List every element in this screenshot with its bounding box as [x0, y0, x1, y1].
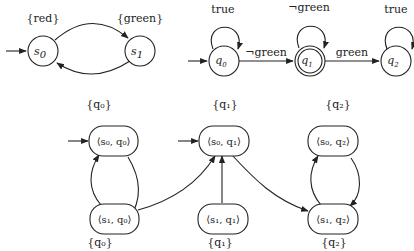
s1q1-label: ⟨s₁, q₁⟩ [206, 214, 240, 225]
s1q2-set: {q₂} [321, 236, 346, 249]
q1-loop-label: ¬green [288, 1, 330, 14]
edge-q0-q1-label: ¬green [245, 46, 287, 59]
buchi-automaton: true ¬green true ¬green green q0 q1 q2 [188, 1, 413, 76]
edge-s1q2-s0q2 [311, 156, 321, 205]
edge-s0q2-s1q2 [350, 158, 360, 206]
s0-props: {red} [27, 12, 60, 25]
q0-loop-label: true [211, 3, 234, 16]
s0q2-set: {q₂} [325, 98, 350, 111]
kripke-structure: {red} {green} s0 s1 [6, 12, 163, 74]
q2-loop-label: true [384, 3, 407, 16]
s0q1-set: {q₁} [212, 98, 237, 111]
edge-s1q0-s0q0 [91, 155, 101, 205]
s1-props: {green} [117, 12, 163, 25]
s0q0-set: {q₀} [86, 98, 111, 111]
s0q2-label: ⟨s₀, q₂⟩ [316, 136, 350, 147]
s1q0-label: ⟨s₁, q₀⟩ [98, 214, 132, 225]
q2-self-loop [385, 27, 413, 49]
s1q1-set: {q₁} [207, 236, 232, 249]
diagram-canvas: {red} {green} s0 s1 true ¬green true ¬gr… [0, 0, 414, 251]
q1-self-loop [297, 26, 325, 48]
edge-s0-s1 [55, 23, 128, 40]
s0q1-label: ⟨s₀, q₁⟩ [207, 136, 241, 147]
edge-s1-s0 [57, 61, 130, 74]
s1q0-set: {q₀} [87, 236, 112, 249]
edge-s0q1-s1q2 [232, 155, 308, 211]
s1q2-label: ⟨s₁, q₂⟩ [316, 214, 350, 225]
s0q0-label: ⟨s₀, q₀⟩ [97, 136, 131, 147]
edge-q1-q2-label: green [336, 46, 368, 59]
product-automaton: {q₀} {q₁} {q₂} {q₀} {q₁} {q₂} ⟨s₀, q₀⟩ ⟨… [68, 98, 360, 249]
edge-s1q0-s0q1 [138, 156, 215, 210]
